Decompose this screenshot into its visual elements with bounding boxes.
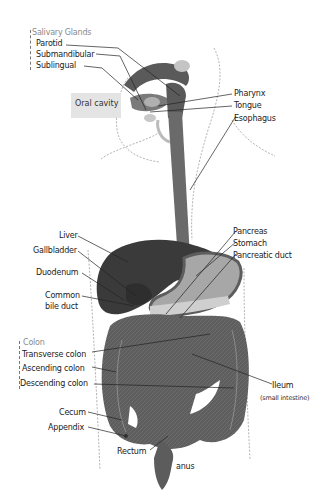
esophagus — [168, 112, 190, 260]
oral-cavity-box: Oral cavity — [71, 93, 121, 118]
label-duodenum: Duodenum — [36, 268, 78, 278]
label-submandibular: Submandibular — [36, 50, 94, 60]
digestive-system-diagram: Salivary Glands Parotid Submandibular Su… — [0, 0, 330, 501]
label-ileum-subtitle: (small intestine) — [260, 393, 309, 403]
label-cecum: Cecum — [59, 408, 86, 418]
salivary-glands-heading: Salivary Glands — [32, 28, 91, 38]
label-anus: anus — [176, 462, 194, 472]
label-gallbladder: Gallbladder — [33, 246, 77, 256]
label-parotid: Parotid — [36, 39, 62, 49]
label-common-bile-duct-line1: Common — [45, 291, 80, 301]
label-appendix: Appendix — [48, 423, 84, 433]
intestines — [102, 314, 249, 449]
label-pancreas: Pancreas — [233, 227, 267, 237]
label-pancreatic-duct: Pancreatic duct — [233, 251, 292, 261]
label-rectum: Rectum — [117, 447, 146, 457]
label-ileum: Ileum — [272, 381, 293, 391]
label-transverse-colon: Transverse colon — [22, 350, 86, 360]
label-liver: Liver — [59, 231, 78, 241]
label-tongue: Tongue — [234, 101, 261, 111]
label-descending-colon: Descending colon — [20, 379, 88, 389]
label-common-bile-duct-line2: bile duct — [45, 302, 78, 312]
label-pharynx: Pharynx — [234, 89, 265, 99]
colon-heading: Colon — [23, 338, 45, 348]
label-sublingual: Sublingual — [36, 61, 76, 71]
label-stomach: Stomach — [233, 239, 267, 249]
label-esophagus: Esophagus — [234, 114, 276, 124]
label-oral-cavity: Oral cavity — [75, 99, 118, 108]
label-ascending-colon: Ascending colon — [22, 364, 85, 374]
salivary-bracket — [30, 30, 31, 70]
